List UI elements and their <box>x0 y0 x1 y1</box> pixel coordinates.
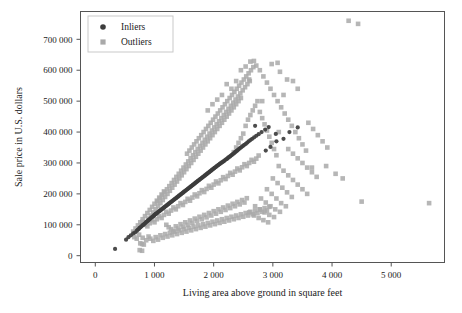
legend: InliersOutliers <box>88 16 173 52</box>
data-point-outlier <box>314 175 319 180</box>
data-point-outlier <box>306 120 311 125</box>
legend-marker-inliers <box>100 24 106 30</box>
data-point-outlier <box>252 59 257 64</box>
data-point-outlier <box>262 210 267 215</box>
data-point-outlier <box>254 63 259 68</box>
x-tick-label: 1 000 <box>144 270 165 280</box>
data-point-outlier <box>256 216 261 221</box>
data-point-inlier <box>113 247 117 251</box>
data-point-outlier <box>210 102 215 107</box>
data-point-outlier <box>239 68 244 73</box>
y-tick-label: 400 000 <box>43 127 73 137</box>
plot-canvas: 01 0002 0003 0004 0005 000Living area ab… <box>0 0 462 313</box>
data-point-outlier <box>142 242 147 247</box>
data-point-outlier <box>247 77 252 82</box>
data-point-outlier <box>279 201 284 206</box>
data-point-outlier <box>228 206 233 211</box>
data-point-outlier <box>278 69 283 74</box>
y-tick-label: 100 000 <box>43 220 73 230</box>
data-point-outlier <box>200 217 205 222</box>
data-point-outlier <box>304 148 309 153</box>
data-point-inlier <box>267 125 271 129</box>
data-point-outlier <box>205 108 210 113</box>
data-point-outlier <box>273 207 278 212</box>
data-point-outlier <box>295 86 300 91</box>
data-point-outlier <box>359 199 364 204</box>
data-point-outlier <box>190 221 195 226</box>
data-point-outlier <box>286 117 291 122</box>
data-point-outlier <box>204 215 209 220</box>
data-point-outlier <box>300 161 305 166</box>
data-point-outlier <box>246 117 251 122</box>
data-point-outlier <box>224 82 229 87</box>
data-point-outlier <box>305 192 310 197</box>
data-point-outlier <box>274 196 279 201</box>
legend-label-outliers: Outliers <box>121 37 152 47</box>
data-point-inlier <box>264 149 268 153</box>
data-point-outlier <box>229 86 234 91</box>
data-point-inlier <box>260 130 264 134</box>
data-point-outlier <box>171 229 176 234</box>
data-point-outlier <box>255 99 260 104</box>
data-point-outlier <box>242 200 247 205</box>
data-point-outlier <box>267 134 272 139</box>
data-point-outlier <box>427 201 432 206</box>
data-point-outlier <box>269 62 274 67</box>
data-point-outlier <box>220 93 225 98</box>
data-point-outlier <box>209 213 214 218</box>
data-point-outlier <box>333 171 338 176</box>
data-point-inlier <box>287 130 291 134</box>
y-tick-label: 300 000 <box>43 158 73 168</box>
data-point-outlier <box>214 211 219 216</box>
data-point-outlier <box>272 93 277 98</box>
y-tick-label: 700 000 <box>43 35 73 45</box>
data-point-inlier <box>268 145 272 149</box>
data-point-outlier <box>285 190 290 195</box>
legend-marker-outliers <box>100 39 105 44</box>
data-point-outlier <box>252 213 257 218</box>
data-point-outlier <box>280 185 285 190</box>
data-point-inlier <box>253 124 257 128</box>
data-point-outlier <box>340 176 345 181</box>
data-point-outlier <box>243 124 248 129</box>
data-point-outlier <box>258 207 263 212</box>
x-tick-label: 4 000 <box>322 270 343 280</box>
data-point-outlier <box>140 248 145 253</box>
data-point-outlier <box>281 93 286 98</box>
data-point-outlier <box>248 113 253 118</box>
data-point-outlier <box>265 80 270 85</box>
x-tick-label: 0 <box>93 270 98 280</box>
data-point-outlier <box>223 208 228 213</box>
data-point-outlier <box>260 116 265 121</box>
data-point-outlier <box>310 165 315 170</box>
data-point-outlier <box>291 178 296 183</box>
data-point-outlier <box>275 181 280 186</box>
data-point-outlier <box>256 153 261 158</box>
x-axis-title: Living area above ground in square feet <box>183 287 343 298</box>
data-point-outlier <box>215 97 220 102</box>
data-point-inlier <box>274 139 278 143</box>
data-point-outlier <box>234 79 239 84</box>
data-point-outlier <box>181 224 186 229</box>
data-point-outlier <box>241 131 246 136</box>
data-point-outlier <box>281 168 286 173</box>
data-point-outlier <box>236 141 241 146</box>
data-point-outlier <box>243 64 248 69</box>
data-point-outlier <box>320 139 325 144</box>
data-point-outlier <box>261 218 266 223</box>
data-point-outlier <box>291 79 296 84</box>
data-point-outlier <box>258 68 263 73</box>
data-point-outlier <box>272 215 277 220</box>
data-point-outlier <box>176 226 181 231</box>
data-point-outlier <box>162 189 167 194</box>
data-point-outlier <box>271 176 276 181</box>
data-point-outlier <box>300 187 305 192</box>
data-point-outlier <box>250 108 255 113</box>
y-tick-label: 200 000 <box>43 189 73 199</box>
y-tick-label: 500 000 <box>43 96 73 106</box>
data-point-outlier <box>356 22 361 27</box>
data-point-outlier <box>258 110 263 115</box>
x-tick-label: 5 000 <box>381 270 402 280</box>
data-point-outlier <box>305 165 310 170</box>
data-point-outlier <box>263 200 268 205</box>
